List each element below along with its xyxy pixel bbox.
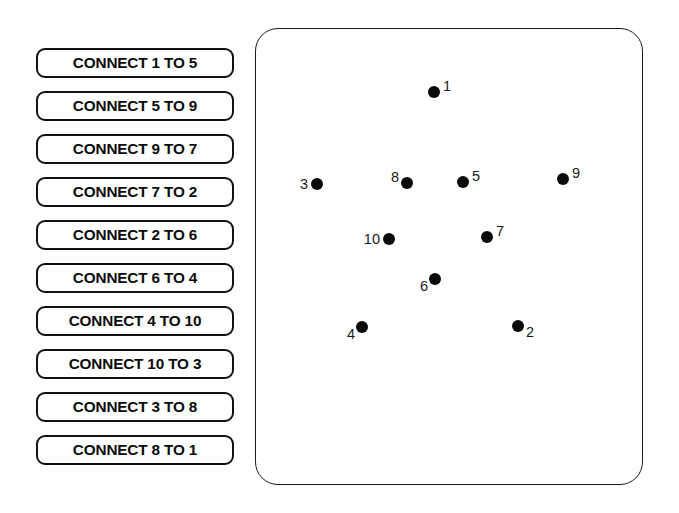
- dot-marker[interactable]: [383, 233, 395, 245]
- dot-marker[interactable]: [457, 176, 469, 188]
- dot-label: 1: [443, 79, 451, 94]
- dot-label: 9: [572, 166, 580, 181]
- instruction-label: CONNECT 7 TO 2: [73, 183, 197, 201]
- instruction-label: CONNECT 8 TO 1: [73, 441, 197, 459]
- dot-marker[interactable]: [356, 321, 368, 333]
- instruction-label: CONNECT 1 TO 5: [73, 54, 197, 72]
- dot-marker[interactable]: [481, 231, 493, 243]
- instruction-button-5[interactable]: CONNECT 2 TO 6: [36, 220, 234, 250]
- instruction-button-2[interactable]: CONNECT 5 TO 9: [36, 91, 234, 121]
- dot-marker[interactable]: [428, 86, 440, 98]
- connect-the-dots-task: CONNECT 1 TO 5 CONNECT 5 TO 9 CONNECT 9 …: [0, 0, 679, 513]
- instruction-button-8[interactable]: CONNECT 10 TO 3: [36, 349, 234, 379]
- dot-label: 10: [364, 232, 380, 247]
- instruction-button-6[interactable]: CONNECT 6 TO 4: [36, 263, 234, 293]
- dot-marker[interactable]: [512, 320, 524, 332]
- dot-label: 6: [420, 279, 428, 294]
- instruction-label: CONNECT 3 TO 8: [73, 398, 197, 416]
- dot-label: 7: [496, 224, 504, 239]
- instruction-button-10[interactable]: CONNECT 8 TO 1: [36, 435, 234, 465]
- instruction-button-9[interactable]: CONNECT 3 TO 8: [36, 392, 234, 422]
- instruction-button-3[interactable]: CONNECT 9 TO 7: [36, 134, 234, 164]
- instruction-label: CONNECT 2 TO 6: [73, 226, 197, 244]
- instruction-label: CONNECT 10 TO 3: [69, 355, 202, 373]
- instruction-button-1[interactable]: CONNECT 1 TO 5: [36, 48, 234, 78]
- dot-label: 4: [347, 327, 355, 342]
- instruction-button-7[interactable]: CONNECT 4 TO 10: [36, 306, 234, 336]
- dot-label: 8: [391, 170, 399, 185]
- instruction-label: CONNECT 6 TO 4: [73, 269, 197, 287]
- instruction-label: CONNECT 5 TO 9: [73, 97, 197, 115]
- dot-label: 2: [526, 325, 534, 340]
- dot-marker[interactable]: [311, 178, 323, 190]
- instruction-list: CONNECT 1 TO 5 CONNECT 5 TO 9 CONNECT 9 …: [36, 48, 234, 465]
- dot-canvas[interactable]: 1 3 8 5 9 10 7 6: [255, 28, 643, 485]
- instruction-label: CONNECT 9 TO 7: [73, 140, 197, 158]
- instruction-label: CONNECT 4 TO 10: [69, 312, 202, 330]
- dot-label: 5: [472, 169, 480, 184]
- dot-marker[interactable]: [401, 177, 413, 189]
- instruction-button-4[interactable]: CONNECT 7 TO 2: [36, 177, 234, 207]
- dot-label: 3: [300, 177, 308, 192]
- dot-marker[interactable]: [557, 173, 569, 185]
- dot-marker[interactable]: [429, 273, 441, 285]
